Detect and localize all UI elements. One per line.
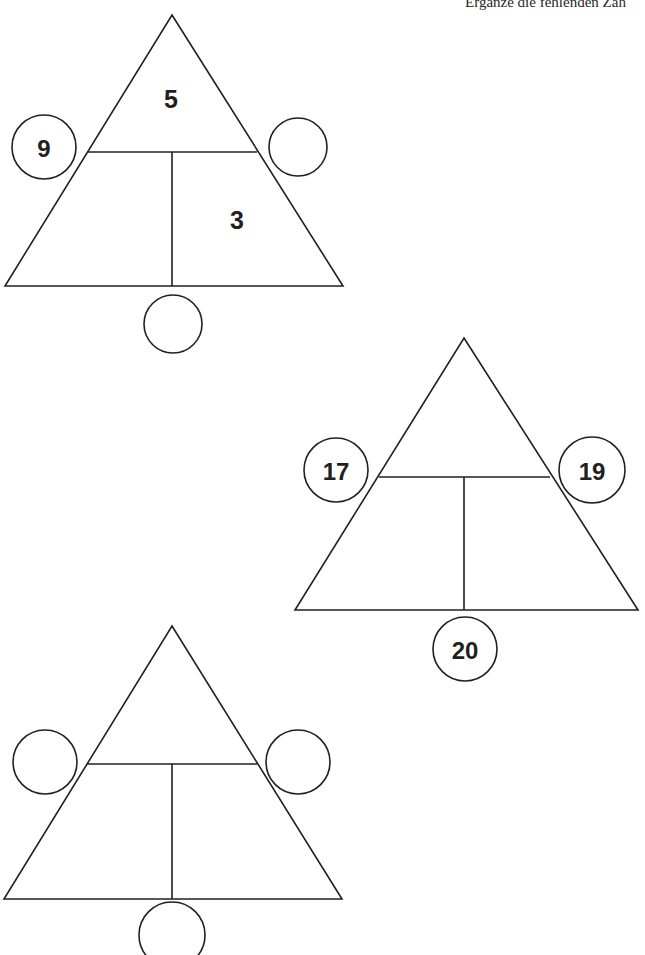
region-top-value-1[interactable]: 5 bbox=[164, 85, 178, 113]
triangle-puzzles-figure: 5 3 9 17 19 20 bbox=[0, 0, 645, 955]
circle-bottom-3[interactable] bbox=[139, 902, 205, 955]
circle-bottom-1[interactable] bbox=[144, 295, 202, 353]
circle-bottom-value-2[interactable]: 20 bbox=[452, 637, 479, 664]
circle-right-value-2[interactable]: 19 bbox=[579, 458, 606, 485]
worksheet-canvas: Ergänze die fehlenden Zah 5 3 9 bbox=[0, 0, 645, 955]
circle-left-value-2[interactable]: 17 bbox=[323, 458, 350, 485]
circle-left-3[interactable] bbox=[13, 730, 77, 794]
triangle-puzzle-3 bbox=[4, 626, 342, 955]
circle-right-3[interactable] bbox=[266, 730, 330, 794]
region-bottom-right-value-1[interactable]: 3 bbox=[230, 206, 244, 234]
circle-right-1[interactable] bbox=[269, 118, 327, 176]
triangle-puzzle-2: 17 19 20 bbox=[295, 338, 638, 681]
triangle-puzzle-1: 5 3 9 bbox=[5, 15, 343, 353]
circle-left-value-1[interactable]: 9 bbox=[37, 135, 50, 162]
